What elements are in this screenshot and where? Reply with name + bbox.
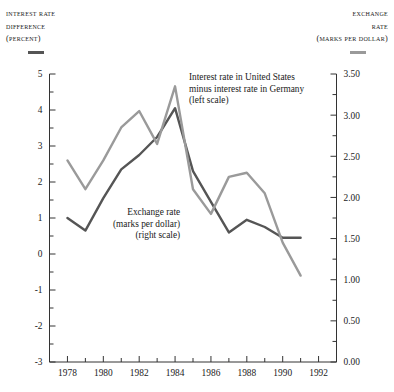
interest-rate-line: [67, 108, 300, 238]
svg-text:3.00: 3.00: [344, 111, 361, 121]
svg-text:4: 4: [38, 105, 43, 115]
right-series-color-swatch: [350, 51, 366, 55]
svg-text:1982: 1982: [130, 368, 149, 378]
left-axis-caption-line-1: Interest rate: [6, 8, 55, 21]
svg-text:3.50: 3.50: [344, 69, 361, 79]
interest-annotation-line-1: Interest rate in United States: [189, 72, 304, 84]
svg-text:1986: 1986: [202, 368, 221, 378]
right-axis-caption-line-3: (marks per dollar): [316, 33, 388, 46]
left-axis-caption-line-2: difference: [6, 21, 55, 34]
svg-text:1988: 1988: [237, 368, 256, 378]
svg-text:1990: 1990: [273, 368, 292, 378]
svg-text:1: 1: [38, 213, 43, 223]
exchange-annotation-line-3: (right scale): [113, 230, 180, 242]
exchange-rate-line: [67, 86, 300, 275]
right-axis-caption-line-1: Exchange: [316, 8, 388, 21]
interest-rate-exchange-rate-chart: Interest rate difference (percent) Excha…: [0, 0, 394, 392]
interest-rate-series-annotation: Interest rate in United States minus int…: [189, 72, 304, 107]
svg-text:1978: 1978: [58, 368, 77, 378]
chart-plot-area: -3-2-1012345 0.000.501.001.502.002.503.0…: [0, 0, 394, 392]
right-axis-caption-line-2: rate: [316, 21, 388, 34]
svg-text:3: 3: [38, 141, 43, 151]
svg-text:1992: 1992: [309, 368, 328, 378]
svg-text:2: 2: [38, 177, 43, 187]
x-axis: 19781980198219841986198819901992: [50, 356, 337, 378]
svg-text:5: 5: [38, 69, 43, 79]
left-axis-caption-line-3: (percent): [6, 33, 55, 46]
svg-text:1.50: 1.50: [344, 234, 361, 244]
svg-text:2.50: 2.50: [344, 152, 361, 162]
svg-text:1980: 1980: [94, 368, 113, 378]
interest-annotation-line-2: minus interest rate in Germany: [189, 84, 304, 96]
left-axis-caption: Interest rate difference (percent): [6, 8, 55, 54]
left-series-color-swatch: [28, 51, 44, 55]
svg-text:1984: 1984: [166, 368, 185, 378]
svg-text:0: 0: [38, 249, 43, 259]
svg-text:2.00: 2.00: [344, 193, 361, 203]
data-series-group: [67, 86, 300, 275]
svg-text:-2: -2: [35, 321, 43, 331]
svg-text:0.00: 0.00: [344, 357, 361, 367]
svg-text:0.50: 0.50: [344, 316, 361, 326]
exchange-annotation-line-1: Exchange rate: [113, 207, 180, 219]
svg-text:-1: -1: [35, 285, 43, 295]
exchange-rate-series-annotation: Exchange rate (marks per dollar) (right …: [113, 207, 180, 242]
svg-text:-3: -3: [35, 357, 43, 367]
right-axis: 0.000.501.001.502.002.503.003.50: [331, 69, 361, 367]
left-axis: -3-2-1012345: [35, 69, 56, 367]
svg-text:1.00: 1.00: [344, 275, 361, 285]
exchange-annotation-line-2: (marks per dollar): [113, 219, 180, 231]
interest-annotation-line-3: (left scale): [189, 95, 304, 107]
right-axis-caption: Exchange rate (marks per dollar): [316, 8, 388, 54]
